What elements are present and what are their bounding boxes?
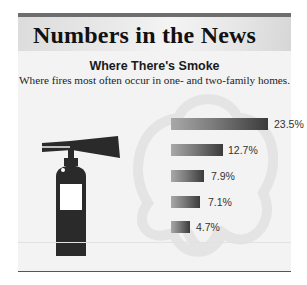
- bar: [171, 196, 200, 208]
- bar: [171, 221, 190, 233]
- bar: [171, 144, 223, 156]
- value-label: 7.1%: [208, 196, 232, 208]
- bottom-rule: [18, 271, 291, 272]
- chart-subtitle: Where fires most often occur in one- and…: [18, 74, 291, 86]
- value-label: 7.9%: [211, 170, 235, 182]
- infographic-panel: Numbers in the News Where There's Smoke …: [18, 13, 291, 271]
- bar: [171, 118, 268, 130]
- floor-line: [18, 242, 291, 243]
- title-band: Numbers in the News: [18, 17, 291, 51]
- page-title: Numbers in the News: [33, 22, 256, 49]
- value-label: 23.5%: [274, 118, 304, 130]
- value-label: 12.7%: [228, 144, 258, 156]
- fire-extinguisher-icon: [40, 136, 122, 256]
- bar: [171, 170, 204, 182]
- value-label: 4.7%: [196, 221, 220, 233]
- chart-title: Where There's Smoke: [18, 59, 291, 73]
